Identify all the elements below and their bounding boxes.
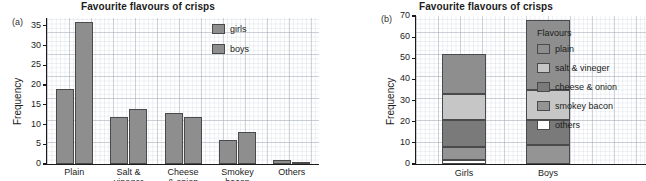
- legend-label-salt-vineger: salt & vineger: [555, 63, 610, 73]
- legend-label-girls: girls: [230, 24, 247, 34]
- segment-girls-salt-vineger: [442, 94, 486, 119]
- segment-boys-smokey-bacon: [526, 145, 570, 164]
- chart-b-category-label-boys: Boys: [518, 168, 578, 178]
- chart-b-tick: [412, 37, 416, 38]
- chart-b-tick-label-70: 70: [384, 10, 410, 20]
- chart-b-tick: [412, 79, 416, 80]
- legend-label-smokey-bacon: smokey bacon: [555, 101, 613, 111]
- chart-a-x-axis: [46, 164, 319, 165]
- chart-a-tick: [43, 124, 47, 125]
- chart-b-x-axis: [415, 164, 646, 165]
- legend-swatch-boys: [212, 44, 225, 54]
- bar-boys-smokey-bacon: [238, 132, 256, 164]
- chart-b-tick: [412, 100, 416, 101]
- legend-swatch-others: [537, 120, 550, 130]
- bar-girls-salt-vineger: [110, 117, 128, 164]
- chart-b-legend: Flavours plainsalt & vinegercheese & oni…: [537, 28, 646, 140]
- legend-label-boys: boys: [230, 44, 249, 54]
- chart-a-tick: [43, 45, 47, 46]
- legend-item-plain: plain: [537, 44, 574, 54]
- chart-a-category-label-others: Others: [256, 167, 328, 177]
- legend-swatch-cheese-onion: [537, 82, 550, 92]
- chart-b-title: Favourite flavours of crisps: [419, 1, 553, 12]
- chart-a-tick-label-10: 10: [15, 119, 41, 129]
- chart-a-tick: [43, 84, 47, 85]
- segment-girls-cheese-onion: [442, 120, 486, 147]
- segment-girls-others: [442, 160, 486, 164]
- legend-item-girls: girls: [212, 24, 247, 34]
- legend-label-plain: plain: [555, 44, 574, 54]
- legend-swatch-smokey-bacon: [537, 101, 550, 111]
- legend-item-boys: boys: [212, 44, 249, 54]
- chart-b-tick-label-30: 30: [384, 95, 410, 105]
- chart-b-tick: [412, 163, 416, 164]
- chart-a-tick-label-35: 35: [15, 20, 41, 30]
- legend-item-smokey-bacon: smokey bacon: [537, 101, 613, 111]
- chart-b-tick: [412, 15, 416, 16]
- bar-boys-plain: [75, 22, 93, 164]
- bar-boys-cheese-onion: [184, 117, 202, 164]
- chart-a-tick: [43, 104, 47, 105]
- legend-swatch-salt-vineger: [537, 63, 550, 73]
- bar-girls-cheese-onion: [165, 113, 183, 164]
- legend-item-others: others: [537, 120, 580, 130]
- chart-panel-b: Favourite flavours of crisps (b) Frequen…: [323, 0, 646, 181]
- chart-a-tick: [43, 144, 47, 145]
- legend-swatch-plain: [537, 44, 550, 54]
- chart-b-category-label-girls: Girls: [434, 168, 494, 178]
- chart-panel-a: Favourite flavours of crisps (a) Frequen…: [0, 0, 323, 181]
- legend-label-others: others: [555, 120, 580, 130]
- chart-b-tick-label-50: 50: [384, 52, 410, 62]
- chart-b-tick-label-10: 10: [384, 137, 410, 147]
- chart-a-tick-label-30: 30: [15, 40, 41, 50]
- chart-b-tick-label-0: 0: [384, 158, 410, 168]
- chart-a-tick-label-5: 5: [15, 138, 41, 148]
- chart-a-legend: girls boys: [212, 24, 307, 64]
- chart-a-title: Favourite flavours of crisps: [81, 1, 215, 12]
- chart-b-tick: [412, 142, 416, 143]
- chart-b-tick: [412, 121, 416, 122]
- chart-b-tick: [412, 58, 416, 59]
- bar-girls-plain: [56, 89, 74, 164]
- chart-b-tick-label-60: 60: [384, 31, 410, 41]
- chart-a-tick-label-20: 20: [15, 79, 41, 89]
- legend-label-cheese-onion: cheese & onion: [555, 82, 617, 92]
- chart-b-tick-label-20: 20: [384, 116, 410, 126]
- legend-swatch-girls: [212, 24, 225, 34]
- segment-girls-smokey-bacon: [442, 147, 486, 160]
- chart-a-tick: [43, 65, 47, 66]
- segment-girls-plain: [442, 54, 486, 94]
- legend-item-cheese-onion: cheese & onion: [537, 82, 617, 92]
- chart-a-tick: [43, 25, 47, 26]
- bar-boys-salt-vineger: [129, 109, 147, 164]
- chart-b-tick-label-40: 40: [384, 73, 410, 83]
- bar-boys-others: [292, 162, 310, 164]
- legend-item-salt-vineger: salt & vineger: [537, 63, 610, 73]
- chart-a-tick: [43, 163, 47, 164]
- legend-title-flavours: Flavours: [537, 28, 572, 38]
- chart-a-tick-label-15: 15: [15, 99, 41, 109]
- chart-a-tick-label-0: 0: [15, 158, 41, 168]
- bar-girls-smokey-bacon: [219, 140, 237, 164]
- chart-a-tick-label-25: 25: [15, 59, 41, 69]
- bar-girls-others: [273, 160, 291, 164]
